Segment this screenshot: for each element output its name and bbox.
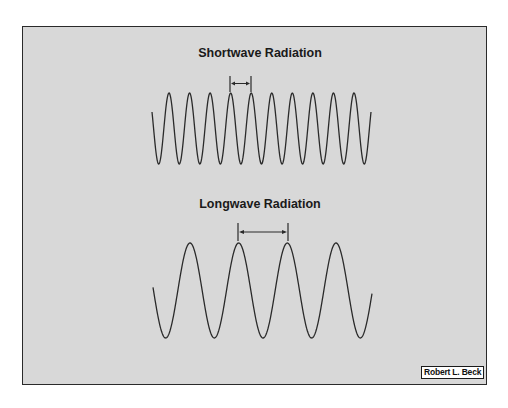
shortwave-title: Shortwave Radiation	[198, 46, 322, 60]
shortwave-wavelength-marker	[230, 76, 251, 92]
longwave-wavelength-marker	[238, 223, 288, 241]
shortwave-arrow-left-icon	[231, 82, 235, 86]
radiation-diagram: Shortwave Radiation Longwave Radiation	[0, 0, 508, 408]
shortwave-arrow-right-icon	[246, 82, 250, 86]
shortwave-wave	[152, 93, 371, 164]
longwave-title: Longwave Radiation	[199, 197, 321, 211]
longwave-wave	[153, 243, 372, 338]
author-credit: Robert L. Beck	[421, 366, 484, 379]
longwave-arrow-left-icon	[239, 230, 244, 234]
longwave-arrow-right-icon	[282, 230, 287, 234]
